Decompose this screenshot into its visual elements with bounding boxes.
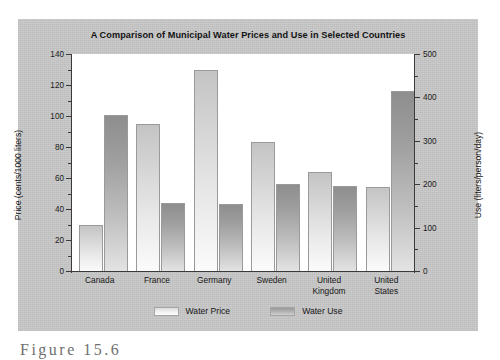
y-axis-left-minor-tick: [68, 256, 71, 257]
y-axis-right-tick-label: 100: [423, 223, 437, 232]
y-axis-right-tick-label: 500: [423, 50, 437, 59]
legend-label: Water Use: [302, 306, 342, 316]
y-axis-right-title-text: Use (liters/person/day): [473, 132, 483, 218]
y-axis-left-tick-label: 80: [31, 143, 64, 152]
legend-swatch-use: [270, 307, 295, 316]
y-axis-left-tick-label: 20: [31, 236, 64, 245]
y-axis-right-tick-label: 0: [423, 267, 428, 276]
chart-title: A Comparison of Municipal Water Prices a…: [18, 30, 478, 40]
y-axis-left-minor-tick: [68, 132, 71, 133]
bar-water-price[interactable]: [79, 225, 103, 272]
y-axis-left-tick: [66, 54, 71, 55]
bar-group: [251, 54, 300, 271]
y-axis-left-minor-tick: [68, 194, 71, 195]
y-axis-right-tick: [415, 228, 420, 229]
bar-group: [194, 54, 243, 271]
bar-group: [136, 54, 185, 271]
bar-water-price[interactable]: [366, 187, 390, 271]
y-axis-right-minor-tick: [415, 76, 418, 77]
bar-group: [79, 54, 128, 271]
figure-caption: Figure 15.6: [20, 341, 121, 359]
figure-panel: A Comparison of Municipal Water Prices a…: [18, 19, 478, 331]
bars-layer: [71, 54, 415, 272]
bar-water-use[interactable]: [333, 186, 357, 271]
y-axis-right-minor-tick: [415, 206, 418, 207]
bar-water-use[interactable]: [161, 203, 185, 271]
plot-area: 020406080100120140 0100200300400500: [71, 54, 415, 272]
y-axis-left-tick: [66, 178, 71, 179]
y-axis-right-tick: [415, 54, 420, 55]
legend-item[interactable]: Water Use: [270, 306, 342, 316]
y-axis-left-tick: [66, 209, 71, 210]
y-axis-right-tick-label: 300: [423, 136, 437, 145]
y-axis-right-tick-label: 400: [423, 93, 437, 102]
y-axis-right-minor-tick: [415, 119, 418, 120]
bar-water-use[interactable]: [104, 115, 128, 271]
legend-label: Water Price: [186, 306, 231, 316]
bar-water-use[interactable]: [219, 204, 243, 271]
y-axis-left-minor-tick: [68, 163, 71, 164]
chart-legend: Water PriceWater Use: [18, 306, 478, 316]
bar-water-price[interactable]: [308, 172, 332, 271]
y-axis-right-tick: [415, 141, 420, 142]
y-axis-left-tick: [66, 85, 71, 86]
y-axis-right-tick-label: 200: [423, 180, 437, 189]
plot-axis-line-left: [71, 54, 72, 273]
legend-swatch-price: [154, 307, 179, 316]
y-axis-left-tick-label: 100: [31, 112, 64, 121]
y-axis-right-minor-tick: [415, 249, 418, 250]
y-axis-left-tick-label: 120: [31, 81, 64, 90]
legend-item[interactable]: Water Price: [154, 306, 231, 316]
y-axis-right-tick: [415, 271, 420, 272]
plot-axis-line-right: [414, 54, 415, 273]
x-axis-category-label-line: States: [349, 286, 423, 297]
bar-water-use[interactable]: [391, 91, 415, 271]
bar-group: [366, 54, 415, 271]
y-axis-left-minor-tick: [68, 101, 71, 102]
plot-axis-line-bottom: [71, 271, 415, 272]
y-axis-left-tick-label: 140: [31, 50, 64, 59]
bar-water-use[interactable]: [276, 184, 300, 271]
y-axis-left-tick: [66, 271, 71, 272]
bar-water-price[interactable]: [136, 124, 160, 271]
y-axis-left-tick-label: 40: [31, 205, 64, 214]
y-axis-right-tick: [415, 97, 420, 98]
y-axis-left-minor-tick: [68, 225, 71, 226]
y-axis-left-minor-tick: [68, 70, 71, 71]
y-axis-right-tick: [415, 184, 420, 185]
bar-group: [308, 54, 357, 271]
bar-water-price[interactable]: [251, 142, 275, 271]
y-axis-left-tick: [66, 240, 71, 241]
x-axis-category-label-line: United: [349, 275, 423, 286]
y-axis-left-tick-label: 60: [31, 174, 64, 183]
y-axis-left-tick: [66, 147, 71, 148]
bar-water-price[interactable]: [194, 70, 218, 272]
y-axis-left-tick-label: 0: [31, 267, 64, 276]
y-axis-left-title-text: Price (cents/1000 liters): [13, 130, 23, 220]
y-axis-right-minor-tick: [415, 163, 418, 164]
y-axis-left-tick: [66, 116, 71, 117]
x-axis-category-label: UnitedStates: [349, 275, 423, 296]
